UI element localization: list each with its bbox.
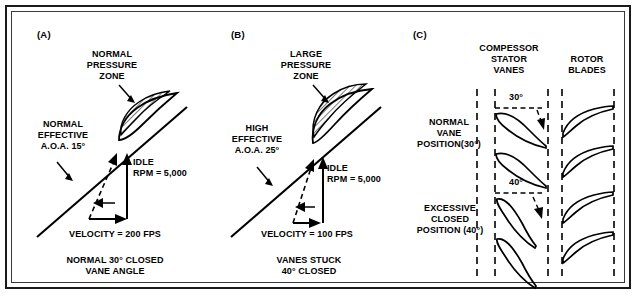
panel-c-stator-vane-2b (497, 239, 536, 288)
panel-a: (A) NORMAL PRESSURE ZONE NORMAL EFFECTIV… (15, 7, 211, 287)
panel-b-vane-chord-line (231, 107, 381, 237)
panel-c-rotor-blade-2a (563, 192, 613, 223)
panel-c-rotor-blade-2b (563, 232, 613, 263)
figure-border: (A) NORMAL PRESSURE ZONE NORMAL EFFECTIV… (5, 5, 631, 289)
panel-a-vane-chord-line (37, 107, 187, 237)
panel-c-angle-40-arrowhead (534, 207, 543, 219)
panel-a-drawing (15, 7, 211, 291)
panel-c-stator-vane-1a (496, 113, 546, 148)
panel-c-drawing (405, 7, 625, 291)
panel-b-drawing (213, 7, 403, 291)
panel-b: (B) LARGE PRESSURE ZONE HIGH EFFECTIVE A… (213, 7, 403, 287)
panel-b-velocity-vector-arrowhead (309, 218, 321, 228)
panel-c: (C) COMPESSOR STATOR VANES ROTOR BLADES … (405, 7, 625, 287)
panel-c-stator-vane-1b (496, 153, 546, 188)
panel-c-rotor-blade-1a (563, 106, 613, 137)
panel-c-rotor-blade-1b (563, 146, 613, 177)
panel-b-rpm-vector-arrowhead (318, 157, 328, 169)
panel-a-velocity-vector-arrowhead (115, 214, 127, 224)
panel-c-angle-30-arrowhead (537, 118, 545, 130)
